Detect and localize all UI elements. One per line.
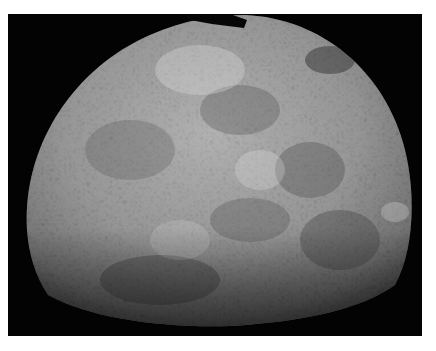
mercury-planet xyxy=(0,0,436,351)
planet-image xyxy=(0,0,436,351)
